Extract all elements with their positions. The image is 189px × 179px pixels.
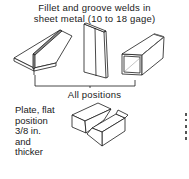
plate-label: Plate, flat position 3/8 in. and thicker: [15, 105, 55, 158]
cropped-text-fragment: [185, 119, 187, 121]
plate-label-line-3: 3/8 in.: [15, 126, 55, 137]
fillet-weld-t-joint-figure: [14, 30, 72, 75]
butt-weld-sheet-figure: [84, 23, 108, 78]
cropped-text-fragment: [185, 125, 187, 128]
square-tube-figure: [122, 34, 164, 75]
plate-label-line-1: Plate, flat: [15, 105, 55, 116]
cropped-text-fragment: [185, 113, 187, 116]
cropped-text-fragment: [185, 131, 187, 134]
all-positions-caption: All positions: [0, 89, 189, 100]
all-positions-bracket: [35, 75, 135, 88]
cropped-text-fragment: [185, 137, 187, 140]
plate-groove-weld-figure: [72, 103, 128, 146]
plate-label-line-5: thicker: [15, 147, 55, 158]
